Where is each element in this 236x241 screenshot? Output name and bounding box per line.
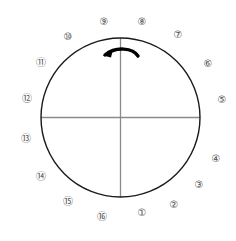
position-label-12: ⑫ [19, 94, 35, 106]
position-label-15: ⑮ [60, 197, 76, 209]
position-label-9: ⑨ [96, 17, 112, 29]
position-label-13: ⑬ [18, 134, 34, 146]
position-label-2: ② [166, 200, 182, 212]
position-label-11: ⑪ [33, 58, 49, 70]
position-label-8: ⑧ [134, 17, 150, 29]
position-label-16: ⑯ [94, 212, 110, 224]
position-label-5: ⑤ [214, 95, 230, 107]
position-label-1: ① [134, 208, 150, 220]
position-label-7: ⑦ [170, 30, 186, 42]
position-label-10: ⑩ [60, 32, 76, 44]
circular-position-diagram: ① ② ③ ④ ⑤ ⑥ ⑦ ⑧ ⑨ ⑩ ⑪ ⑫ ⑬ ⑭ ⑮ ⑯ [0, 0, 236, 241]
diagram-canvas [0, 0, 236, 241]
position-label-14: ⑭ [33, 172, 49, 184]
position-label-3: ③ [191, 180, 207, 192]
position-label-4: ④ [208, 154, 224, 166]
position-label-6: ⑥ [200, 59, 216, 71]
